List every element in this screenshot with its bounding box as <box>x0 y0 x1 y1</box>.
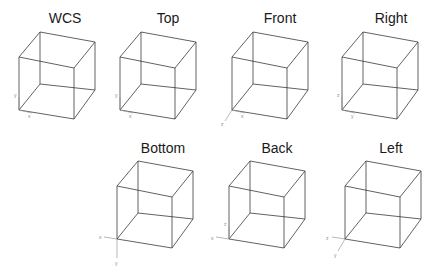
cube-back: xz <box>211 161 305 248</box>
view-label-back: Back <box>261 140 292 156</box>
view-label-left: Left <box>379 140 402 156</box>
svg-text:x: x <box>241 113 244 119</box>
svg-text:x: x <box>99 234 102 240</box>
axis-indicator-icon: zx <box>221 110 245 127</box>
cube-front: zx <box>221 32 308 127</box>
view-label-front: Front <box>264 10 297 26</box>
svg-text:y: y <box>334 252 337 258</box>
cube-right: zy <box>337 32 418 119</box>
view-label-bottom: Bottom <box>141 140 185 156</box>
cube-drawings: yxyxzxzyxyxzzy <box>0 0 437 278</box>
svg-text:z: z <box>224 221 227 227</box>
cube-wcs: yx <box>14 32 95 119</box>
cube-top: yx <box>115 32 196 119</box>
view-label-right: Right <box>375 10 408 26</box>
axis-indicator-icon: zy <box>326 235 345 258</box>
svg-text:y: y <box>115 260 118 266</box>
cube-left: zy <box>326 161 421 258</box>
svg-text:x: x <box>28 113 31 119</box>
svg-text:y: y <box>351 113 354 119</box>
svg-text:z: z <box>337 92 340 98</box>
view-label-top: Top <box>157 10 180 26</box>
axis-indicator-icon: xz <box>211 221 229 241</box>
svg-text:y: y <box>14 92 17 98</box>
view-label-wcs: WCS <box>49 10 82 26</box>
cube-bottom: xy <box>99 161 193 266</box>
svg-text:z: z <box>326 235 329 241</box>
svg-text:x: x <box>129 113 132 119</box>
svg-text:x: x <box>211 235 214 241</box>
svg-text:z: z <box>221 121 224 127</box>
axis-indicator-icon: xy <box>99 234 118 266</box>
svg-text:y: y <box>115 92 118 98</box>
